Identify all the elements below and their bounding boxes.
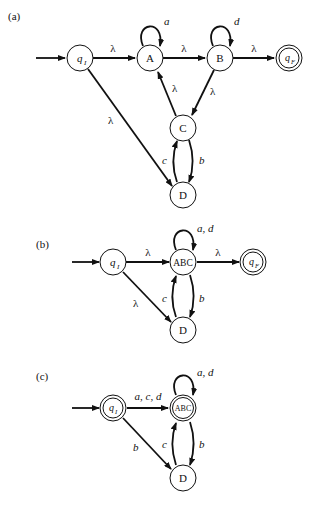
- panel-b: (b) λ a, d λ λ b c q I: [36, 222, 266, 343]
- automata-figure: (a) λ a λ d λ λ λ: [0, 0, 315, 510]
- loop-A: [141, 26, 160, 46]
- panel-c: (c) a, c, d a, d b b c q I: [36, 366, 214, 491]
- panel-label: (b): [36, 238, 49, 251]
- edge-D-ABC: [172, 423, 176, 465]
- state-label: A: [146, 52, 154, 64]
- loop-ABC: [174, 230, 193, 250]
- edge-label: c: [162, 154, 167, 166]
- loop-ABC: [174, 375, 193, 395]
- state-label: q: [77, 52, 83, 64]
- edge-label: b: [199, 292, 205, 304]
- edge-label: a: [164, 15, 170, 27]
- loop-B: [211, 26, 230, 46]
- edge-label: λ: [110, 42, 116, 54]
- state-qI: q I: [67, 45, 93, 71]
- edge-label: b: [199, 154, 205, 166]
- edge-D-ABC: [172, 276, 176, 317]
- state-D: D: [170, 465, 196, 491]
- panel-a: (a) λ a λ d λ λ λ: [8, 10, 302, 208]
- state-ABC: ABC: [170, 249, 196, 275]
- edge-label: a, d: [197, 222, 214, 234]
- edge-label: λ: [172, 82, 178, 94]
- state-label: ABC: [175, 404, 191, 413]
- edge-label: c: [162, 292, 167, 304]
- edge-label: λ: [133, 297, 139, 309]
- state-A: A: [137, 45, 163, 71]
- state-qF: q F: [240, 249, 266, 275]
- edge-label: λ: [210, 85, 216, 97]
- edge-label: c: [162, 438, 167, 450]
- state-label: q: [110, 256, 116, 268]
- state-label: q: [285, 52, 290, 63]
- edge-label: a, c, d: [135, 390, 162, 402]
- edge-label: λ: [251, 42, 257, 54]
- edge-label: λ: [145, 246, 151, 258]
- panel-label: (c): [36, 370, 49, 383]
- state-qI: q I: [100, 395, 126, 421]
- edge-label: a, d: [197, 366, 214, 378]
- edge-label: b: [199, 438, 205, 450]
- state-C: C: [170, 115, 196, 141]
- edge-ABC-D: [190, 275, 194, 317]
- state-label: ABC: [173, 258, 193, 268]
- state-D: D: [170, 317, 196, 343]
- state-label: B: [216, 52, 223, 64]
- edge-D-C: [173, 141, 177, 182]
- edge-qI-D: [88, 69, 172, 186]
- state-label: C: [179, 122, 186, 134]
- state-label: D: [179, 189, 187, 201]
- edge-ABC-D: [190, 422, 194, 465]
- panel-label: (a): [8, 10, 21, 23]
- edge-label: λ: [181, 42, 187, 54]
- state-label: D: [179, 324, 187, 336]
- edge-label: b: [133, 441, 139, 453]
- figure-caption: [0, 496, 315, 506]
- edge-label: λ: [215, 246, 221, 258]
- state-B: B: [207, 45, 233, 71]
- state-label: q: [249, 256, 254, 267]
- edge-label: d: [234, 15, 240, 27]
- state-qI: q I: [100, 249, 126, 275]
- state-D: D: [170, 182, 196, 208]
- edge-label: λ: [108, 114, 114, 126]
- state-qF: q F: [276, 45, 302, 71]
- edge-C-A: [158, 72, 176, 116]
- edge-C-D: [189, 140, 193, 182]
- state-label: q: [109, 402, 114, 413]
- state-ABC: ABC: [170, 395, 196, 421]
- state-label: D: [179, 472, 187, 484]
